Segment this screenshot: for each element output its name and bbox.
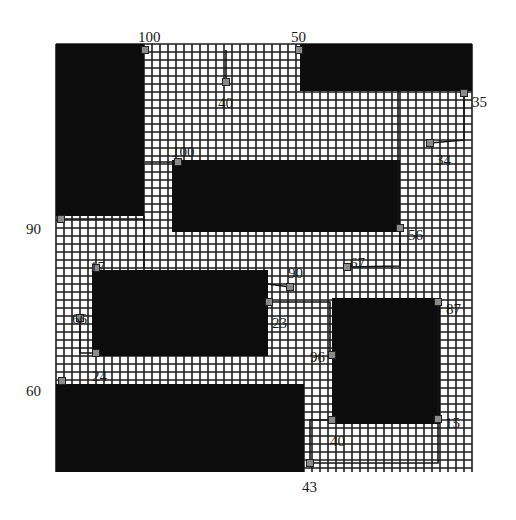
circuit-layout-diagram: 1005040353410090566717902387669624601540… [0,0,516,520]
pin-23-label: 23 [272,315,287,331]
pin-40-bottom-marker-icon [329,417,336,424]
pin-40-top-marker-icon [223,79,230,86]
pin-23-marker-icon [266,299,273,306]
pin-96-marker-icon [329,352,336,359]
pin-40-top-label: 40 [218,95,233,111]
block-mid-left [92,270,268,356]
pin-66-label: 66 [72,311,88,327]
pin-24-label: 24 [92,368,108,384]
pin-50-marker-icon [296,47,303,54]
pin-87-label: 87 [446,301,462,317]
pin-40-bottom-label: 40 [330,433,345,449]
pin-67-label: 67 [350,255,366,271]
pin-100-mid-label: 100 [172,144,195,160]
block-top-right [300,44,472,91]
pin-100-top-marker-icon [142,47,149,54]
block-top-left [56,44,144,216]
pin-60-marker-icon [59,378,66,385]
pin-17-label: 17 [90,259,106,275]
pin-90-mid-label: 90 [288,265,303,281]
pin-15-label: 15 [445,415,460,431]
block-center [172,160,400,232]
block-right [332,298,440,424]
pin-35-label: 35 [472,94,487,110]
pin-100-top-label: 100 [138,29,161,45]
pin-34-label: 34 [436,152,452,168]
pin-60-label: 60 [26,383,41,399]
pin-34-marker-icon [427,140,434,147]
pin-56-marker-icon [397,225,404,232]
pin-56-label: 56 [408,227,424,243]
pin-90-mid-marker-icon [287,284,294,291]
pin-50-label: 50 [291,29,306,45]
pin-43-marker-icon [307,460,314,467]
pin-43-label: 43 [302,479,317,495]
pin-15-marker-icon [435,416,442,423]
pin-35-marker-icon [461,90,468,97]
pin-90-left-marker-icon [58,216,65,223]
pin-90-left-label: 90 [26,221,41,237]
pin-87-marker-icon [435,299,442,306]
pin-96-label: 96 [310,349,326,365]
pin-24-marker-icon [93,350,100,357]
block-bottom-left [56,384,304,472]
